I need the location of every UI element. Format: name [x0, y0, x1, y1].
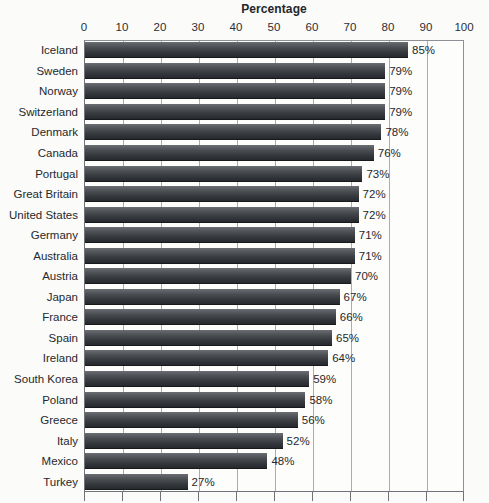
bar-row[interactable]: Ireland64%	[0, 348, 489, 369]
x-tick-label-60: 60	[306, 21, 319, 33]
bar-row[interactable]: Mexico48%	[0, 451, 489, 472]
category-label: Great Britain	[0, 188, 78, 200]
category-label: Mexico	[0, 455, 78, 467]
bar-value-label: 85%	[412, 44, 435, 56]
bar[interactable]	[85, 63, 385, 79]
x-axis-tick-50	[274, 492, 275, 501]
x-axis-tick-10	[122, 492, 123, 501]
bar-row[interactable]: Canada76%	[0, 143, 489, 164]
x-axis-tick-60	[312, 492, 313, 501]
bar[interactable]	[85, 371, 309, 387]
x-axis-tick-80	[388, 492, 389, 501]
x-tick-label-40: 40	[230, 21, 243, 33]
bar-value-label: 66%	[340, 311, 363, 323]
bar-row[interactable]: Sweden79%	[0, 61, 489, 82]
bar[interactable]	[85, 124, 381, 140]
x-axis-tick-0	[84, 492, 85, 501]
bar-row[interactable]: Australia71%	[0, 245, 489, 266]
bar[interactable]	[85, 412, 298, 428]
x-tick-label-20: 20	[154, 21, 167, 33]
bar-row[interactable]: Austria70%	[0, 266, 489, 287]
bar-value-label: 58%	[309, 394, 332, 406]
bar-row[interactable]: Japan67%	[0, 287, 489, 308]
bar[interactable]	[85, 207, 359, 223]
bar-value-label: 67%	[344, 291, 367, 303]
category-label: Portugal	[0, 168, 78, 180]
bar-value-label: 76%	[378, 147, 401, 159]
bar-row[interactable]: United States72%	[0, 204, 489, 225]
bar-row[interactable]: France66%	[0, 307, 489, 328]
category-label: Germany	[0, 229, 78, 241]
bar-rows: Iceland85%Sweden79%Norway79%Switzerland7…	[0, 40, 489, 492]
bar-value-label: 52%	[287, 435, 310, 447]
bar[interactable]	[85, 350, 328, 366]
bar-value-label: 65%	[336, 332, 359, 344]
bar-row[interactable]: Iceland85%	[0, 40, 489, 61]
category-label: Sweden	[0, 65, 78, 77]
x-axis-tick-100	[463, 492, 464, 501]
bar-row[interactable]: Portugal73%	[0, 163, 489, 184]
bar[interactable]	[85, 42, 408, 58]
bar-value-label: 79%	[389, 85, 412, 97]
bar-value-label: 71%	[359, 229, 382, 241]
x-axis-tick-70	[350, 492, 351, 501]
bar[interactable]	[85, 433, 283, 449]
x-axis-tick-20	[160, 492, 161, 501]
bar[interactable]	[85, 268, 351, 284]
category-label: Italy	[0, 435, 78, 447]
category-label: United States	[0, 209, 78, 221]
bar-row[interactable]: Italy52%	[0, 430, 489, 451]
bar[interactable]	[85, 474, 188, 490]
chart-title: Percentage	[84, 2, 464, 16]
category-label: Norway	[0, 85, 78, 97]
bar-value-label: 48%	[271, 455, 294, 467]
x-tick-label-90: 90	[420, 21, 433, 33]
category-label: Japan	[0, 291, 78, 303]
bar[interactable]	[85, 104, 385, 120]
bar[interactable]	[85, 227, 355, 243]
bar[interactable]	[85, 392, 305, 408]
bar-row[interactable]: Great Britain72%	[0, 184, 489, 205]
bar-value-label: 73%	[366, 168, 389, 180]
x-axis-tick-30	[198, 492, 199, 501]
bar[interactable]	[85, 309, 336, 325]
category-label: Turkey	[0, 476, 78, 488]
bar-row[interactable]: Germany71%	[0, 225, 489, 246]
x-axis-tick-90	[426, 492, 427, 501]
bar[interactable]	[85, 166, 362, 182]
bar[interactable]	[85, 83, 385, 99]
bar-row[interactable]: Switzerland79%	[0, 102, 489, 123]
category-label: Iceland	[0, 44, 78, 56]
bar-row[interactable]: Turkey27%	[0, 471, 489, 492]
bar-value-label: 79%	[389, 106, 412, 118]
bar[interactable]	[85, 145, 374, 161]
bar[interactable]	[85, 330, 332, 346]
bar-value-label: 78%	[385, 126, 408, 138]
category-label: Austria	[0, 270, 78, 282]
bar[interactable]	[85, 186, 359, 202]
bar-row[interactable]: Denmark78%	[0, 122, 489, 143]
x-axis-ticks	[84, 492, 464, 503]
category-label: Greece	[0, 414, 78, 426]
bar[interactable]	[85, 453, 267, 469]
bar-chart: Percentage 0102030405060708090100 Icelan…	[0, 0, 489, 503]
category-label: Canada	[0, 147, 78, 159]
x-tick-label-80: 80	[382, 21, 395, 33]
category-label: Poland	[0, 394, 78, 406]
x-tick-label-50: 50	[268, 21, 281, 33]
category-label: Denmark	[0, 126, 78, 138]
x-axis-tick-labels: 0102030405060708090100	[0, 21, 489, 37]
category-label: Ireland	[0, 352, 78, 364]
category-label: Australia	[0, 250, 78, 262]
bar-row[interactable]: South Korea59%	[0, 369, 489, 390]
bar-row[interactable]: Norway79%	[0, 81, 489, 102]
bar-value-label: 56%	[302, 414, 325, 426]
bar-row[interactable]: Greece56%	[0, 410, 489, 431]
bar[interactable]	[85, 248, 355, 264]
bar-value-label: 71%	[359, 250, 382, 262]
x-axis-tick-40	[236, 492, 237, 501]
bar-value-label: 79%	[389, 65, 412, 77]
bar-row[interactable]: Poland58%	[0, 389, 489, 410]
bar-row[interactable]: Spain65%	[0, 328, 489, 349]
bar[interactable]	[85, 289, 340, 305]
